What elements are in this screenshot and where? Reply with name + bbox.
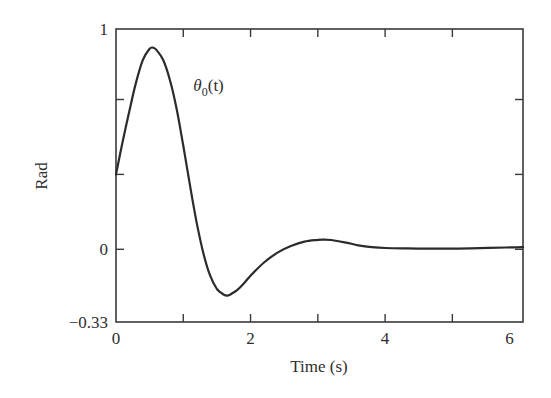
axis-ticks bbox=[116, 29, 523, 322]
x-tick-label: 6 bbox=[505, 329, 514, 348]
y-axis-title: Rad bbox=[32, 162, 51, 190]
plot-frame bbox=[116, 29, 523, 322]
y-tick-labels: 10−0.33 bbox=[69, 20, 108, 332]
x-tick-label: 0 bbox=[112, 329, 121, 348]
y-tick-label: 0 bbox=[100, 240, 109, 259]
theta-zero-curve bbox=[116, 47, 523, 295]
x-tick-label: 4 bbox=[381, 329, 390, 348]
annotation-tail: (t) bbox=[208, 76, 224, 95]
x-axis-title: Time (s) bbox=[290, 357, 347, 376]
x-tick-label: 2 bbox=[246, 329, 255, 348]
annotation-theta: θ bbox=[193, 76, 201, 95]
x-tick-labels: 0246 bbox=[112, 329, 514, 348]
line-chart: 0246 10−0.33 θ0(t) Time (s) Rad bbox=[0, 0, 551, 398]
y-tick-label: −0.33 bbox=[69, 313, 108, 332]
curve-annotation: θ0(t) bbox=[193, 76, 223, 99]
y-tick-label: 1 bbox=[100, 20, 109, 39]
